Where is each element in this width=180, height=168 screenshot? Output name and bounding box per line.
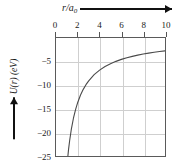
y-tick-label: −15 — [37, 104, 51, 114]
arrow-shaft — [80, 8, 172, 10]
figure-root: r/a0 0246810 U(r) (eV) −5−10−15−20−25 — [0, 0, 180, 168]
x-tick-label: 8 — [142, 19, 147, 31]
y-axis-title: U(r) (eV) — [6, 40, 22, 158]
x-tick-label: 4 — [97, 19, 102, 31]
x-tick-label: 6 — [119, 19, 124, 31]
right-arrow-icon — [80, 5, 172, 13]
arrow-head — [10, 97, 18, 104]
y-axis-ticklabels: −5−10−15−20−25 — [22, 0, 53, 168]
y-tick-label: −5 — [41, 56, 51, 66]
plot-frame — [55, 37, 166, 157]
x-tick-label: 0 — [53, 19, 58, 31]
potential-energy-curve — [56, 38, 165, 156]
y-tick-label: −20 — [37, 128, 51, 138]
x-tick-mark — [166, 32, 167, 37]
x-axis-title-label: r/a0 — [62, 3, 77, 16]
y-tick-label: −10 — [37, 80, 51, 90]
x-tick-label: 10 — [162, 19, 171, 31]
arrow-head — [165, 5, 172, 13]
up-arrow-icon — [10, 97, 18, 139]
y-tick-label: −25 — [37, 152, 51, 162]
y-axis-title-label: U(r) (eV) — [9, 59, 19, 95]
x-tick-label: 2 — [75, 19, 80, 31]
x-axis-title: r/a0 — [62, 1, 172, 17]
